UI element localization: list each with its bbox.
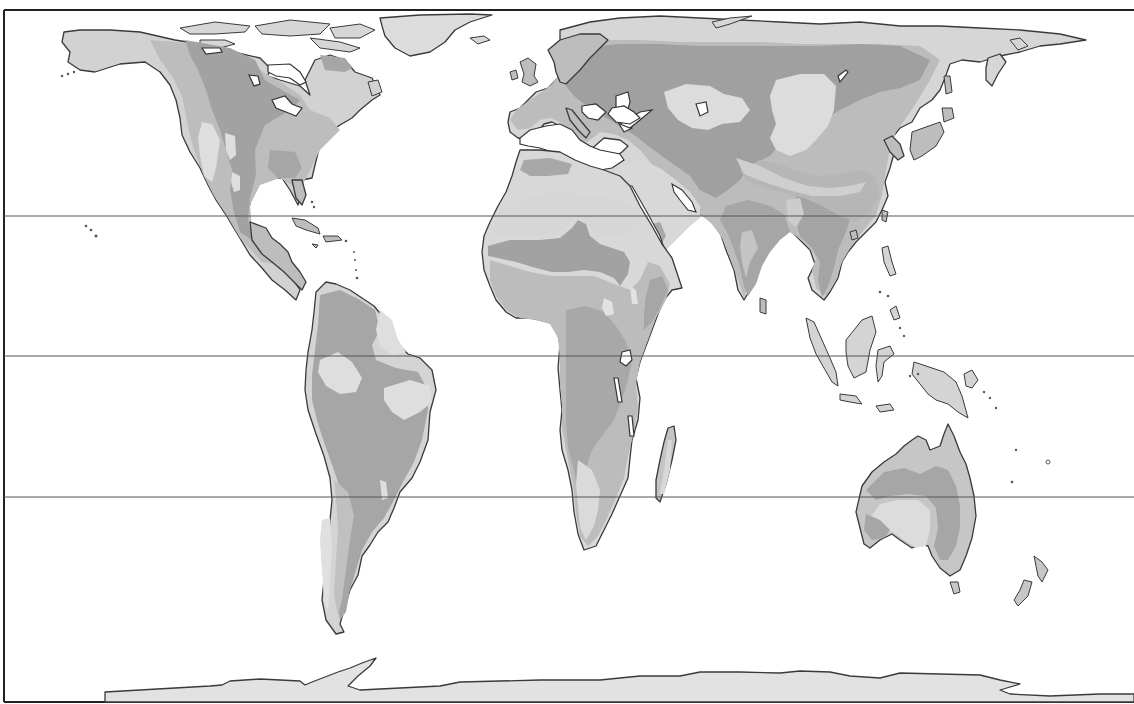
australia xyxy=(856,424,976,594)
new-zealand xyxy=(1014,556,1048,606)
world-map xyxy=(0,0,1134,704)
south-america xyxy=(305,282,436,634)
antarctica xyxy=(105,658,1134,702)
central-america xyxy=(85,201,359,290)
north-america xyxy=(61,30,382,300)
greenland xyxy=(380,14,492,56)
